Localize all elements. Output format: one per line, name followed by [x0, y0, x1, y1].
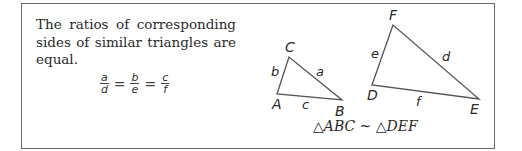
vertex-a-label: A — [271, 96, 282, 112]
side-a-label: a — [316, 64, 324, 79]
side-c-label: c — [302, 97, 309, 112]
vertex-b-label: B — [335, 103, 345, 119]
triangle-abc — [277, 57, 342, 100]
side-d-label: d — [442, 49, 451, 64]
similarity-statement: △ABC ~ △DEF — [313, 118, 418, 134]
side-f-label: f — [416, 94, 423, 109]
triangle-def — [372, 25, 479, 99]
vertex-d-label: D — [367, 87, 378, 103]
side-e-label: e — [371, 46, 379, 61]
vertex-f-label: F — [389, 7, 398, 23]
side-b-label: b — [271, 64, 279, 79]
vertex-c-label: C — [285, 39, 295, 55]
vertex-e-label: E — [470, 101, 479, 117]
similar-triangles-figure: C A B b a c F D E e d f — [0, 0, 522, 151]
